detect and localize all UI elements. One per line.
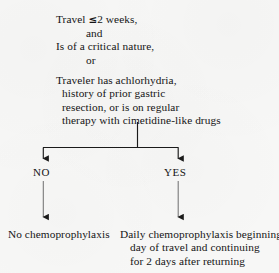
flowchart-canvas: Travel ≤2 weeks, and Is of a critical na… (0, 0, 279, 273)
flowchart-connectors (0, 0, 279, 273)
